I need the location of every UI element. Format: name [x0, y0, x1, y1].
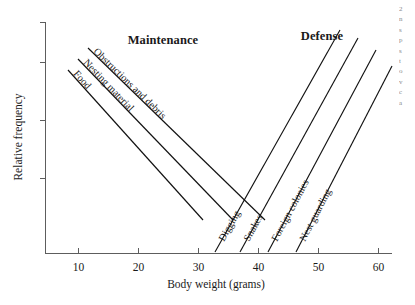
- bleed-line-1: 2: [399, 4, 415, 14]
- series-group-maintenance: Obstructions and debris Nesting material…: [68, 46, 265, 220]
- series-digging: Digging: [215, 30, 340, 252]
- series-obstructions-and-debris: Obstructions and debris: [88, 46, 265, 220]
- series-nesting-material: Nesting material: [78, 57, 233, 220]
- bleed-line-6: t: [399, 56, 415, 66]
- x-tick-label-20: 20: [133, 261, 145, 273]
- bleed-line-9: c: [399, 87, 415, 97]
- x-tick-label-60: 60: [373, 261, 385, 273]
- group-title-maintenance: Maintenance: [128, 33, 199, 47]
- bleed-line-5: s: [399, 46, 415, 56]
- y-axis-title: Relative frequency: [12, 93, 25, 180]
- bleed-line-8: v: [399, 77, 415, 87]
- x-tick-label-40: 40: [253, 261, 265, 273]
- series-foreign-colonies: Foreign colonies: [268, 50, 376, 252]
- x-axis-title: Body weight (grams): [167, 278, 265, 291]
- page-edge-bleed-text: 2 n s p s t o v c a: [399, 4, 415, 109]
- series-nest-guarding: Nest guarding: [296, 66, 392, 252]
- x-tick-label-10: 10: [73, 261, 85, 273]
- bleed-line-10: a: [399, 98, 415, 108]
- bleed-line-4: p: [399, 35, 415, 45]
- bleed-line-7: o: [399, 66, 415, 76]
- series-label-snakes: Snakes: [241, 212, 265, 243]
- series-snakes: Snakes: [240, 38, 358, 252]
- figure-container: 10 20 30 40 50 60 Body weight (grams) Re…: [0, 0, 415, 305]
- x-tick-label-30: 30: [193, 261, 205, 273]
- bleed-line-2: n: [399, 14, 415, 24]
- bleed-line-3: s: [399, 25, 415, 35]
- x-tick-label-50: 50: [313, 261, 325, 273]
- series-label-digging: Digging: [216, 208, 242, 243]
- chart-canvas: 10 20 30 40 50 60 Body weight (grams) Re…: [0, 0, 415, 305]
- series-group-defense: Digging Snakes Foreign colonies Nest gua…: [215, 30, 392, 252]
- axes: 10 20 30 40 50 60 Body weight (grams) Re…: [12, 22, 392, 291]
